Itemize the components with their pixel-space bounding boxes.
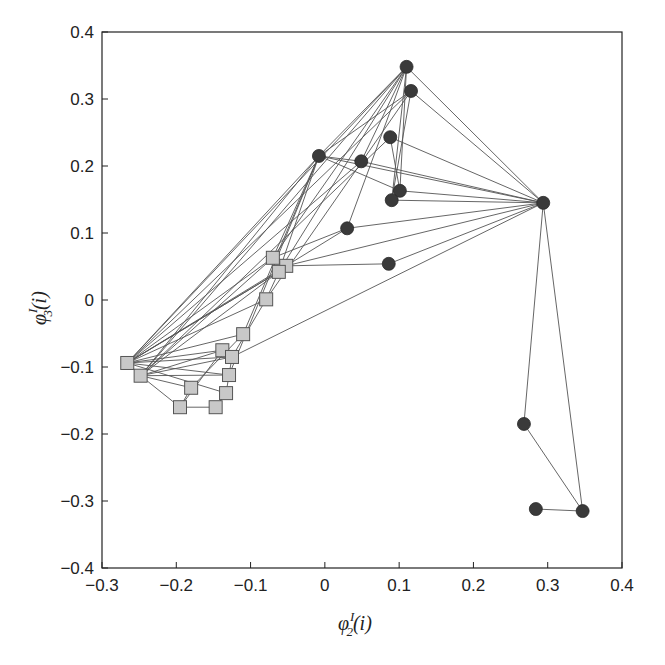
circle-node [341, 222, 354, 235]
square-node [220, 387, 233, 400]
graph-edge [286, 264, 389, 266]
graph-edge [319, 91, 411, 156]
graph-edge [411, 91, 543, 203]
y-tick-label: −0.3 [60, 492, 94, 511]
y-tick-label: 0.1 [70, 224, 94, 243]
x-tick-label: −0.3 [85, 576, 119, 595]
y-axis-ticks: −0.4−0.3−0.2−0.100.10.20.30.4 [60, 23, 108, 578]
graph-edge [141, 375, 229, 376]
y-tick-label: 0 [85, 291, 94, 310]
graph-edge [127, 91, 411, 363]
graph-edge [524, 424, 583, 511]
graph-edge [400, 67, 407, 191]
square-node [272, 265, 285, 278]
circle-node [400, 60, 413, 73]
square-node [266, 251, 279, 264]
graph-edge [392, 91, 411, 200]
square-node [237, 328, 250, 341]
y-tick-label: 0.4 [70, 23, 94, 42]
circle-node [384, 131, 397, 144]
graph-edge [127, 67, 406, 363]
circle-node [355, 155, 368, 168]
graph-edge [141, 272, 279, 376]
y-axis-label: φI3(i) [25, 291, 55, 325]
y-tick-label: 0.2 [70, 157, 94, 176]
circle-node [405, 84, 418, 97]
x-tick-label: 0 [320, 576, 329, 595]
y-tick-label: 0.3 [70, 90, 94, 109]
square-node [121, 356, 134, 369]
circle-node [529, 503, 542, 516]
circle-node [537, 196, 550, 209]
y-tick-label: −0.2 [60, 425, 94, 444]
square-node [260, 293, 273, 306]
y-tick-label: −0.1 [60, 358, 94, 377]
square-node [209, 401, 222, 414]
circle-node [312, 149, 325, 162]
x-tick-label: 0.2 [462, 576, 486, 595]
x-tick-label: −0.2 [160, 576, 194, 595]
x-tick-label: 0.3 [536, 576, 560, 595]
graph-edge [127, 272, 279, 363]
square-node [174, 401, 187, 414]
circle-node [576, 505, 589, 518]
edge-layer [127, 67, 582, 511]
graph-edge [279, 156, 319, 272]
graph-edge [536, 509, 583, 511]
graph-edge [347, 203, 543, 228]
circle-node [382, 257, 395, 270]
x-axis-ticks: −0.3−0.2−0.100.10.20.30.4 [85, 562, 634, 595]
square-node [134, 369, 147, 382]
graph-edge [524, 203, 543, 424]
graph-edge [273, 67, 407, 258]
graph-edge [319, 156, 543, 203]
square-node [226, 350, 239, 363]
square-node [185, 381, 198, 394]
graph-edge [543, 203, 582, 511]
graph-edge [141, 350, 223, 375]
circle-node [517, 417, 530, 430]
marker-layer [121, 60, 589, 517]
graph-edge [286, 203, 543, 266]
graph-edge [389, 203, 544, 264]
graph-edge [361, 67, 406, 161]
x-tick-label: 0.1 [387, 576, 411, 595]
circle-node [385, 194, 398, 207]
network-scatter-chart: −0.3−0.2−0.100.10.20.30.4 −0.4−0.3−0.2−0… [0, 0, 665, 665]
graph-edge [286, 228, 347, 266]
graph-edge [390, 137, 543, 203]
x-tick-label: −0.1 [234, 576, 268, 595]
graph-edge [407, 67, 544, 203]
square-node [223, 369, 236, 382]
x-axis-label: φI2(i) [338, 609, 372, 639]
graph-edge [141, 67, 407, 376]
graph-edge [232, 203, 543, 357]
y-tick-label: −0.4 [60, 559, 94, 578]
x-tick-label: 0.4 [610, 576, 634, 595]
